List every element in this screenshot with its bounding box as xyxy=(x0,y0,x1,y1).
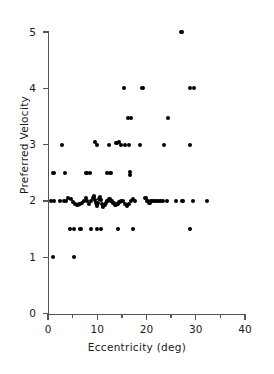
data-point xyxy=(133,199,137,203)
data-point xyxy=(191,199,195,203)
scatter-plot-figure: 012345 010203040 Eccentricity (deg) Pref… xyxy=(0,0,274,374)
data-point xyxy=(72,255,76,259)
data-point xyxy=(127,143,131,147)
data-point xyxy=(162,143,166,147)
data-point xyxy=(60,143,64,147)
data-point xyxy=(99,227,103,231)
data-point xyxy=(180,199,184,203)
data-point xyxy=(131,227,135,231)
data-point xyxy=(128,173,132,177)
data-point xyxy=(52,199,56,203)
data-point xyxy=(63,171,67,175)
data-point xyxy=(192,86,196,90)
data-point xyxy=(72,227,76,231)
data-point xyxy=(138,143,142,147)
y-axis-label: Preferred Velocity xyxy=(18,55,30,235)
data-point xyxy=(95,143,99,147)
data-point xyxy=(165,199,169,203)
data-point xyxy=(166,116,170,120)
data-point xyxy=(107,143,111,147)
data-point xyxy=(140,86,144,90)
scatter-point-layer xyxy=(0,0,274,374)
data-point xyxy=(205,199,209,203)
data-point xyxy=(116,227,120,231)
data-point xyxy=(129,116,133,120)
data-point xyxy=(51,255,55,259)
data-point xyxy=(51,171,55,175)
x-axis-label: Eccentricity (deg) xyxy=(0,341,274,353)
data-point xyxy=(179,30,183,34)
data-point xyxy=(78,227,82,231)
data-point xyxy=(188,227,192,231)
data-point xyxy=(122,86,126,90)
data-point xyxy=(108,171,112,175)
data-point xyxy=(174,199,178,203)
data-point xyxy=(89,227,93,231)
data-point xyxy=(188,143,192,147)
data-point xyxy=(88,171,92,175)
